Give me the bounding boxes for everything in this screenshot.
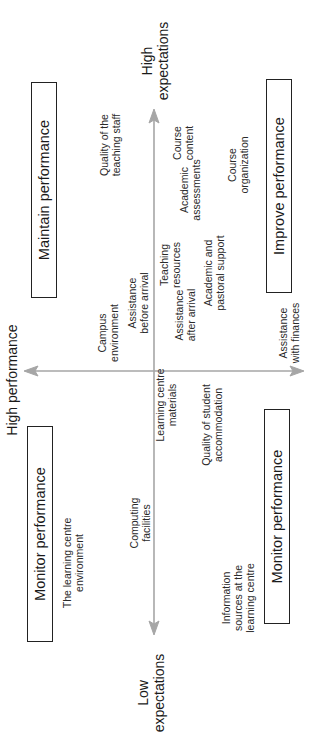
quadrant-monitor-performance-left: Monitor performance [27,426,53,642]
item-label: Academic and pastoral support [202,235,226,310]
axis-label-low-expectations: Low expectations [135,654,167,732]
item-label: Quality of student accommodation [200,384,224,466]
axis-label-high-expectations: High expectations [139,22,171,101]
quadrant-label: Monitor performance [32,467,48,601]
item-label: Assistance with finances [277,303,301,364]
item-label: Learning centre materials [154,369,178,442]
quadrant-label: Monitor performance [269,450,285,584]
item-label: Assistance before arrival [126,272,150,333]
item-label: Quality of the teaching staff [98,114,122,176]
item-label: Assistance after arrival [173,289,197,342]
item-label: Teaching resources [158,242,182,288]
quadrant-monitor-performance-right: Monitor performance [264,409,290,624]
item-label: Course organization [226,136,250,193]
item-label: The learning centre environment [61,518,85,608]
quadrant-label: Maintain performance [36,120,52,260]
item-label: Computing facilities [128,498,152,549]
item-label: Information sources at the learning cent… [220,563,256,632]
item-label: Academic assessments [178,159,202,220]
axis-title-high-performance: High performance [4,324,20,435]
quadrant-maintain-performance: Maintain performance [31,82,57,298]
item-label: Campus environment [96,304,120,362]
quadrant-label: Improve performance [271,117,287,255]
quadrant-improve-performance: Improve performance [266,79,292,293]
item-label: Course content [171,126,195,160]
